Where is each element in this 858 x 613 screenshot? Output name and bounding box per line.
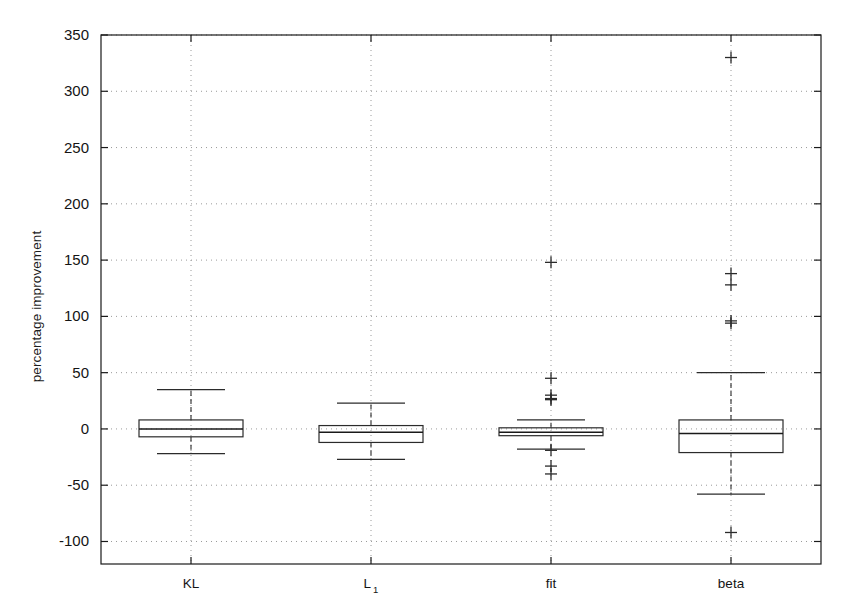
x-axis-tick-label: fit bbox=[546, 576, 557, 591]
y-axis-tick-label: 200 bbox=[64, 195, 89, 212]
box-rect bbox=[319, 426, 423, 443]
x-axis-tick-label: beta bbox=[718, 576, 745, 591]
plot-frame bbox=[101, 35, 821, 564]
y-axis-label: percentage improvement bbox=[16, 0, 56, 613]
boxplot-figure: percentage improvement 35030025020015010… bbox=[0, 0, 858, 613]
boxplot-canvas: 350300250200150100500-50-100KLL1fitbeta bbox=[0, 0, 858, 613]
y-axis-tick-label: 0 bbox=[81, 420, 89, 437]
y-axis-tick-label: 300 bbox=[64, 82, 89, 99]
y-axis-tick-label: 100 bbox=[64, 307, 89, 324]
y-axis-tick-label: -50 bbox=[67, 476, 89, 493]
y-axis-tick-label: 250 bbox=[64, 139, 89, 156]
x-axis-tick-label: KL bbox=[183, 576, 200, 591]
y-axis-tick-label: 50 bbox=[72, 364, 89, 381]
y-axis-tick-label: 150 bbox=[64, 251, 89, 268]
y-axis-tick-label: 350 bbox=[64, 26, 89, 43]
box-rect bbox=[679, 420, 783, 453]
y-axis-tick-label: -100 bbox=[59, 532, 89, 549]
x-axis-tick-label: L1 bbox=[364, 576, 379, 595]
